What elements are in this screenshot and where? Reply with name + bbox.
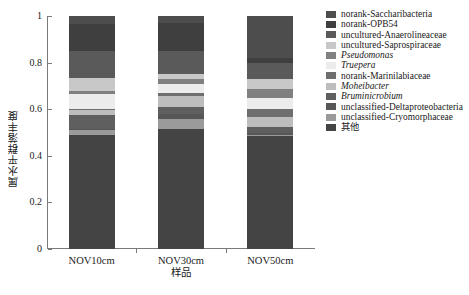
bar-segment (158, 79, 204, 84)
bar-segment (69, 110, 115, 115)
bar-segment (247, 16, 293, 58)
bar-segment (247, 136, 293, 249)
y-tick-mark (48, 156, 52, 157)
bar-segment (158, 119, 204, 129)
bar-segment (69, 135, 115, 249)
legend-swatch (326, 11, 336, 18)
legend-item[interactable]: norank-Marinilabiaceae (326, 71, 468, 81)
legend-swatch (326, 103, 336, 110)
bar-segment (69, 109, 115, 110)
chart-figure: 属水平群落丰度 00.20.40.60.81 NOV10cmNOV30cmNOV… (0, 0, 469, 295)
legend-item[interactable]: uncultured-Anaerolineaceae (326, 30, 468, 40)
legend-swatch (326, 52, 336, 59)
legend-item[interactable]: Pseudomonas (326, 50, 468, 60)
y-tick-mark (48, 249, 52, 250)
bar-stack (69, 16, 115, 249)
legend-item[interactable]: Truepera (326, 60, 468, 70)
y-tick-label: 0.4 (30, 151, 43, 161)
y-tick-label: 0.6 (30, 104, 43, 114)
y-axis-title-text: 属水平群落丰度 (8, 109, 20, 186)
bar-segment (158, 84, 204, 93)
bar-segment (158, 107, 204, 114)
bar-segment (69, 115, 115, 129)
legend-label: norank-OPB54 (341, 19, 398, 29)
y-tick-mark (48, 63, 52, 64)
legend-item[interactable]: norank-OPB54 (326, 19, 468, 29)
y-tick-label: 1 (37, 11, 42, 21)
legend-swatch (326, 62, 336, 69)
legend-item[interactable]: norank-Saccharibacteria (326, 9, 468, 19)
bar-segment (158, 96, 204, 106)
legend-item[interactable]: unclassified-Deltaproteobacteria (326, 102, 468, 112)
y-tick-label: 0.2 (30, 197, 43, 207)
legend-swatch (326, 42, 336, 49)
legend-swatch (326, 124, 336, 131)
bar-segment (158, 23, 204, 51)
x-tick-mark (226, 249, 227, 253)
bar-group: NOV50cm (247, 16, 293, 249)
bar-segment (69, 51, 115, 78)
bar-stack (247, 16, 293, 249)
x-tick-label: NOV10cm (69, 256, 115, 267)
legend-swatch (326, 83, 336, 90)
bar-segment (247, 133, 293, 135)
legend-label: unclassified-Cryomorphaceae (341, 112, 453, 122)
bar-segment (247, 89, 293, 97)
bar-segment (158, 74, 204, 79)
bar-segment (247, 63, 293, 79)
legend-label: uncultured-Anaerolineaceae (341, 30, 447, 40)
legend-label: uncultured-Saprospiraceae (341, 40, 441, 50)
legend-swatch (326, 21, 336, 28)
x-tick-label: NOV30cm (158, 256, 204, 267)
bar-segment (69, 24, 115, 51)
bar-group: NOV10cm (69, 16, 115, 249)
bar-segment (247, 109, 293, 117)
legend-swatch (326, 93, 336, 100)
legend-label: norank-Saccharibacteria (341, 9, 432, 19)
legend-swatch (326, 114, 336, 121)
bar-segment (69, 130, 115, 135)
legend-label: unclassified-Deltaproteobacteria (341, 102, 463, 112)
bar-segment (69, 129, 115, 130)
legend-swatch (326, 31, 336, 38)
legend-label: Pseudomonas (341, 50, 393, 60)
bar-segment (247, 79, 293, 89)
legend-swatch (326, 72, 336, 79)
y-tick-mark (48, 109, 52, 110)
bar-segment (247, 58, 293, 63)
bar-segment (247, 127, 293, 133)
bar-segment (158, 93, 204, 96)
bar-segment (69, 94, 115, 109)
x-tick-label: NOV50cm (247, 256, 293, 267)
bar-segment (158, 51, 204, 74)
legend-label: Truepera (341, 60, 375, 70)
bar-segment (247, 117, 293, 126)
y-axis-title: 属水平群落丰度 (6, 109, 20, 186)
bar-group: NOV30cm (158, 16, 204, 249)
y-tick-label: 0.8 (30, 58, 43, 68)
bar-segment (158, 16, 204, 23)
plot-area: 00.20.40.60.81 NOV10cmNOV30cmNOV50cm (47, 16, 315, 249)
bar-segment (247, 98, 293, 110)
legend: norank-Saccharibacterianorank-OPB54uncul… (326, 9, 468, 133)
y-tick-mark (48, 202, 52, 203)
bar-segment (69, 78, 115, 91)
legend-label: Moheibacter (341, 81, 389, 91)
bar-segment (69, 91, 115, 94)
x-axis-title: 样品 (47, 268, 315, 279)
legend-item[interactable]: uncultured-Saprospiraceae (326, 40, 468, 50)
bar-segment (158, 114, 204, 119)
legend-label: norank-Marinilabiaceae (341, 71, 431, 81)
legend-label: 其他 (341, 122, 359, 132)
bar-segment (69, 16, 115, 24)
x-tick-mark (136, 249, 137, 253)
y-tick-label: 0 (37, 244, 42, 254)
legend-item[interactable]: Bruminicrobium (326, 91, 468, 101)
legend-item[interactable]: Moheibacter (326, 81, 468, 91)
bar-stack (158, 16, 204, 249)
legend-item[interactable]: 其他 (326, 122, 468, 132)
bar-segment (158, 129, 204, 249)
legend-item[interactable]: unclassified-Cryomorphaceae (326, 112, 468, 122)
y-axis-line (47, 16, 48, 249)
legend-label: Bruminicrobium (341, 91, 403, 101)
